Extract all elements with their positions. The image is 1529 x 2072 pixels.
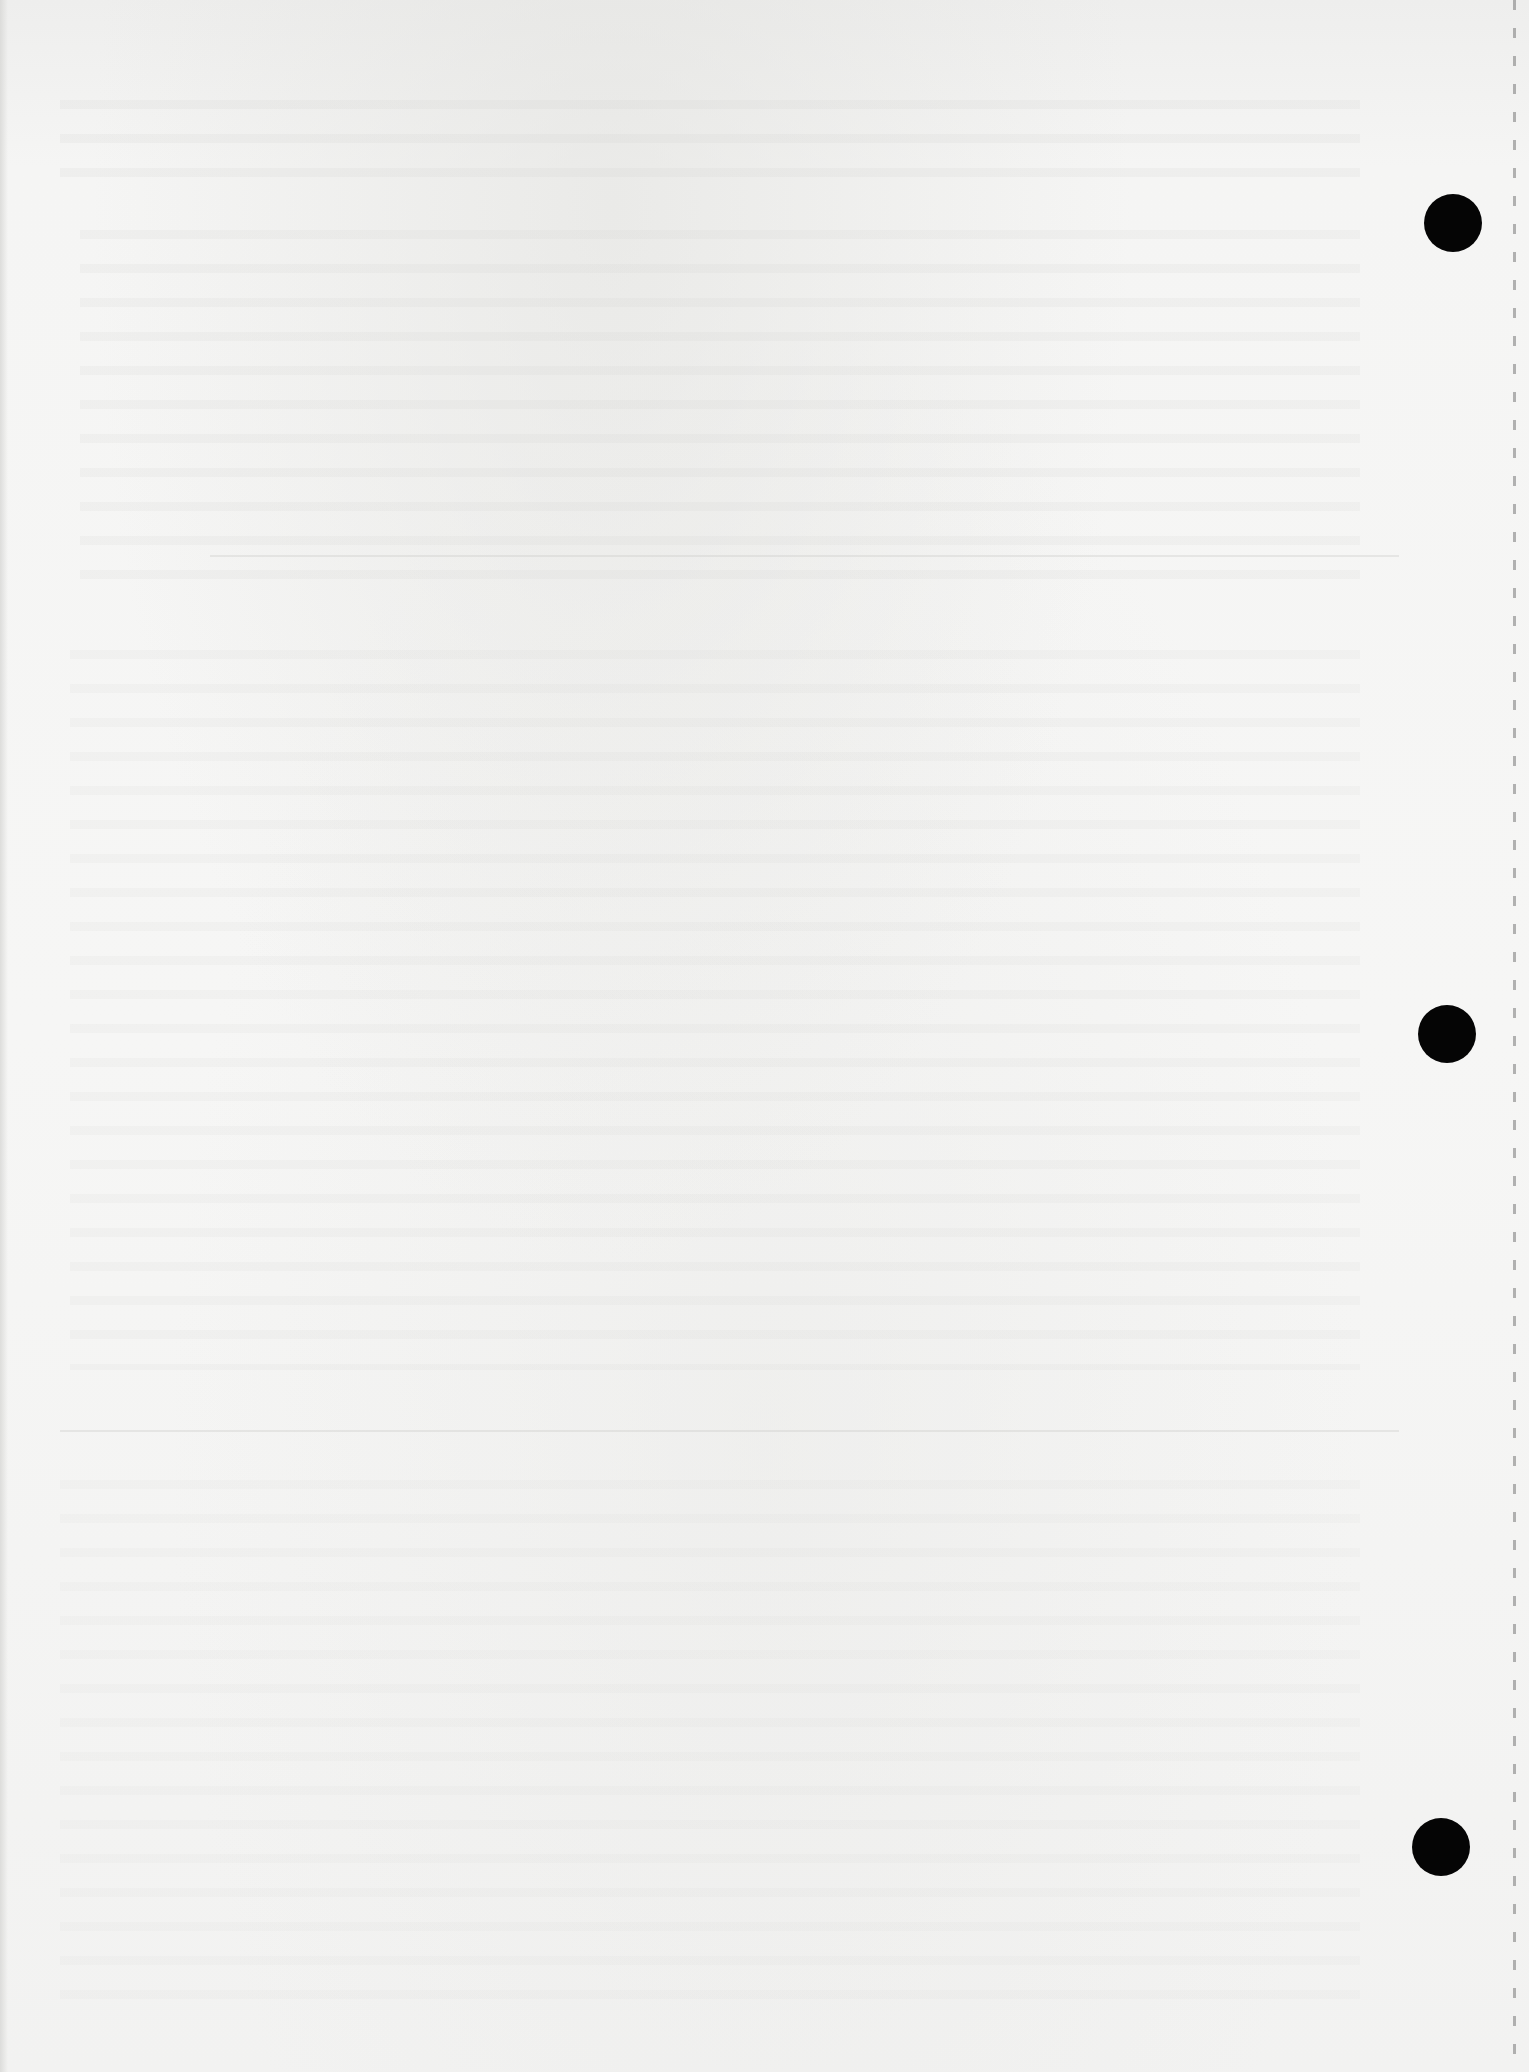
bleed-through-body bbox=[70, 650, 1360, 1370]
scanned-page bbox=[0, 0, 1529, 2072]
page-left-edge-shadow bbox=[0, 0, 8, 2072]
bleed-through-rule bbox=[210, 555, 1399, 557]
punch-hole-top bbox=[1424, 194, 1482, 252]
bleed-through-footer bbox=[60, 1480, 1360, 2000]
bleed-through-rule bbox=[60, 1430, 1399, 1432]
punch-hole-bottom bbox=[1412, 1818, 1470, 1876]
bleed-through-table bbox=[80, 230, 1360, 590]
punch-hole-middle bbox=[1418, 1005, 1476, 1063]
bleed-through-header bbox=[60, 100, 1360, 180]
perforation-line bbox=[1513, 0, 1516, 2072]
